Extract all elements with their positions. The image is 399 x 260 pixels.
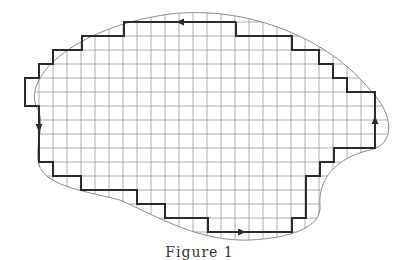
figure-caption: Figure 1	[0, 244, 399, 260]
region-boundary-curve	[34, 13, 388, 241]
staircase-path	[25, 22, 375, 232]
arrow-top-left-icon	[176, 19, 184, 26]
arrow-left-down-icon	[36, 124, 43, 132]
arrow-bottom-right-icon	[238, 229, 246, 236]
